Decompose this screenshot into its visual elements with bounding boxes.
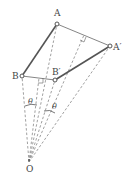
segment-AA-prime: [57, 24, 110, 46]
label-A: A: [53, 8, 61, 18]
point-B-prime: [53, 78, 57, 82]
point-O-marker: [28, 159, 30, 161]
segment-A-prime-B-prime: [55, 46, 110, 80]
thin-segments: [22, 24, 110, 80]
dashed-rays: [22, 24, 110, 162]
ray-OB-prime: [29, 80, 55, 162]
label-B: B: [12, 71, 19, 81]
point-A: [55, 22, 59, 26]
bold-segments: [22, 24, 110, 80]
ray-OB: [22, 76, 29, 162]
rotation-diagram: A A′ B B′ O θ θ: [0, 0, 129, 178]
label-B-prime: B′: [52, 67, 61, 77]
label-theta-1: θ: [28, 97, 33, 106]
label-theta-2: θ: [52, 102, 57, 111]
point-B: [20, 74, 24, 78]
label-A-prime: A′: [112, 42, 122, 52]
label-O: O: [26, 164, 33, 174]
point-A-prime: [108, 44, 112, 48]
